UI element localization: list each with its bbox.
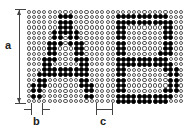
dot-empty [79, 10, 83, 14]
dot-empty [106, 20, 110, 24]
dot-empty [106, 10, 110, 14]
dot-filled [168, 25, 173, 30]
dot-empty [32, 68, 36, 72]
dot-empty [153, 68, 157, 72]
dot-filled [116, 20, 121, 25]
dot-empty [42, 36, 46, 40]
dot-empty [95, 94, 99, 98]
dot-empty [127, 31, 131, 35]
dot-filled [121, 99, 126, 104]
dot-filled [137, 99, 142, 104]
dot-empty [111, 78, 115, 82]
dot-empty [174, 52, 178, 56]
dot-empty [90, 41, 94, 45]
dot-empty [69, 99, 73, 103]
dot-filled [168, 94, 173, 99]
dot-empty [106, 99, 110, 103]
dot-empty [27, 83, 31, 87]
dot-filled [89, 94, 94, 99]
dot-empty [48, 94, 52, 98]
dot-empty [179, 41, 183, 45]
dot-filled [137, 57, 142, 62]
dot-empty [32, 20, 36, 24]
dot-filled [121, 25, 126, 30]
dot-empty [127, 10, 131, 14]
dot-filled [174, 88, 179, 93]
dot-empty [79, 31, 83, 35]
dot-empty [106, 25, 110, 29]
dot-empty [69, 83, 73, 87]
dot-filled [42, 57, 47, 62]
dot-filled [116, 51, 121, 56]
dot-filled [58, 72, 63, 77]
dot-empty [179, 89, 183, 93]
dot-filled [63, 30, 68, 35]
dot-filled [58, 41, 63, 46]
dot-empty [148, 52, 152, 56]
dot-empty [37, 68, 41, 72]
dot-empty [69, 52, 73, 56]
dot-empty [84, 41, 88, 45]
dot-filled [116, 78, 121, 83]
dot-empty [95, 20, 99, 24]
dot-empty [95, 15, 99, 19]
dot-filled [52, 72, 57, 77]
dot-filled [52, 35, 57, 40]
dot-empty [158, 41, 162, 45]
dot-empty [127, 46, 131, 50]
dot-empty [95, 89, 99, 93]
dot-filled [121, 72, 126, 77]
dot-filled [163, 20, 168, 25]
dot-empty [179, 68, 183, 72]
dot-empty [174, 99, 178, 103]
arrow-up-icon [17, 10, 21, 15]
dot-filled [74, 35, 79, 40]
dot-empty [58, 57, 62, 61]
dot-empty [32, 36, 36, 40]
dot-empty [37, 99, 41, 103]
dot-empty [53, 89, 57, 93]
dot-empty [169, 15, 173, 19]
dot-filled [153, 62, 158, 67]
dot-empty [148, 41, 152, 45]
dot-filled [163, 30, 168, 35]
dot-empty [90, 46, 94, 50]
dot-empty [58, 62, 62, 66]
dot-empty [111, 31, 115, 35]
dot-empty [111, 89, 115, 93]
dot-filled [58, 14, 63, 19]
dot-filled [153, 14, 158, 19]
dot-filled [52, 41, 57, 46]
dot-empty [142, 78, 146, 82]
dot-empty [148, 89, 152, 93]
dot-filled [79, 62, 84, 67]
dot-empty [58, 46, 62, 50]
dot-empty [111, 25, 115, 29]
dot-empty [179, 46, 183, 50]
dot-empty [153, 41, 157, 45]
dot-filled [42, 67, 47, 72]
dot-filled [121, 83, 126, 88]
dot-empty [63, 36, 67, 40]
dot-empty [179, 52, 183, 56]
dot-empty [48, 36, 52, 40]
dot-empty [79, 20, 83, 24]
dot-empty [100, 57, 104, 61]
dot-filled [137, 62, 142, 67]
dot-empty [153, 83, 157, 87]
dot-empty [174, 46, 178, 50]
dot-empty [84, 25, 88, 29]
dot-empty [95, 57, 99, 61]
dot-empty [148, 46, 152, 50]
dot-empty [106, 52, 110, 56]
dimension-a-line [19, 10, 20, 104]
dot-empty [132, 73, 136, 77]
dot-empty [106, 31, 110, 35]
dot-empty [179, 31, 183, 35]
dot-empty [142, 68, 146, 72]
dot-filled [168, 72, 173, 77]
dot-filled [68, 72, 73, 77]
dot-empty [137, 25, 141, 29]
dimension-b-right-arrow [43, 109, 50, 110]
dot-empty [132, 83, 136, 87]
